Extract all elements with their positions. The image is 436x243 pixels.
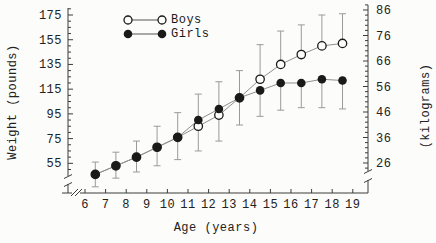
boys-point [297,50,305,58]
y-right-ticks: 26364656667686 [363,4,391,171]
girls-point [132,153,141,162]
x-axis-title: Age (years) [174,221,259,235]
y-left-tick-label: 75 [47,133,62,147]
x-tick-label: 11 [180,198,195,212]
x-tick-label: 15 [263,198,278,212]
girls-point [318,75,327,84]
girls-point [338,76,347,85]
y-right-tick-label: 86 [376,4,391,18]
legend-item-boys: Boys [121,13,210,26]
girls-point [235,94,244,103]
girls-point [276,79,285,88]
girls-point [215,105,224,114]
girls-point [112,161,121,170]
legend-label-boys: Boys [171,13,202,27]
girls-point [153,143,162,152]
x-tick-label: 16 [283,198,298,212]
girls-filled-circle-marker-icon [121,28,169,40]
x-tick-label: 12 [201,198,216,212]
x-tick-label: 6 [81,198,89,212]
y-right-tick-label: 46 [376,106,391,120]
y-right-tick-label: 26 [376,157,391,171]
weight-by-age-figure: 6789101112131415161718195575951151351551… [0,0,436,243]
y-left-tick-label: 55 [47,157,62,171]
y-axis-right-title: (kilograms) [419,64,433,149]
y-right-tick-label: 66 [376,55,391,69]
boys-point [256,75,264,83]
x-tick-label: 14 [242,198,257,212]
y-right-tick-label: 56 [376,81,391,95]
boys-open-circle-marker-icon [121,14,169,26]
y-left-tick-label: 175 [39,9,62,23]
y-left-tick-label: 95 [47,108,62,122]
girls-point [194,116,203,125]
x-tick-label: 13 [221,198,236,212]
axes [62,5,372,196]
y-left-tick-label: 135 [39,58,62,72]
weight-chart: 6789101112131415161718195575951151351551… [0,0,436,243]
x-tick-label: 8 [122,198,130,212]
x-tick-label: 19 [345,198,360,212]
chart-legend: Boys Girls [121,13,210,40]
y-left-tick-label: 115 [39,83,62,97]
girls-point [91,170,100,179]
x-tick-label: 17 [304,198,319,212]
x-tick-label: 9 [143,198,151,212]
boys-point [338,39,346,47]
x-tick-label: 10 [160,198,175,212]
y-right-tick-label: 36 [376,132,391,146]
x-axis-ticks: 678910111213141516171819 [81,189,360,212]
girls-point [173,133,182,142]
y-right-tick-label: 76 [376,30,391,44]
y-axis-left-title: Weight (pounds) [6,44,20,160]
boys-point [277,60,285,68]
boys-point [318,42,326,50]
legend-item-girls: Girls [121,27,210,40]
girls-point [297,79,306,88]
x-tick-label: 18 [324,198,339,212]
y-left-tick-label: 155 [39,34,62,48]
girls-point [256,86,265,95]
x-tick-label: 7 [102,198,110,212]
legend-label-girls: Girls [171,27,210,41]
